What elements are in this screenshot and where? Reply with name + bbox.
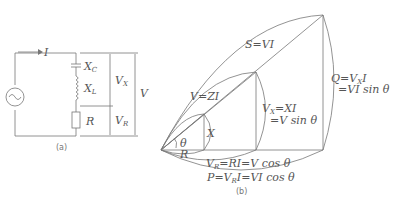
power-triangle-diagram: S=VI V=ZI VX=XI =V sin θ Q=VXI =VI sin θ… xyxy=(161,15,390,196)
vr-label: VR xyxy=(115,114,129,128)
circuit-diagram: I XC XL R VX VR V (a) xyxy=(6,46,149,152)
q-sin-label: =VI sin θ xyxy=(338,83,390,96)
x-label: X xyxy=(206,127,216,140)
xc-label: XC xyxy=(83,60,98,74)
vx-label: VX xyxy=(115,74,129,88)
v-zi-label: V=ZI xyxy=(190,90,220,103)
sine-wave-icon xyxy=(9,95,21,100)
current-label: I xyxy=(43,46,49,59)
wire-bottom xyxy=(15,110,76,136)
v-label: V xyxy=(140,87,149,100)
inductor-icon xyxy=(76,76,78,100)
caption-b: (b) xyxy=(236,187,247,196)
xl-label: XL xyxy=(83,82,97,96)
resistor-icon xyxy=(72,112,80,128)
p-label: P=VRI=VI cos θ xyxy=(206,171,295,185)
arrow-head-icon xyxy=(38,49,43,55)
s-label: S=VI xyxy=(245,38,275,51)
diagram-canvas: I XC XL R VX VR V (a) xyxy=(0,0,412,203)
vx-sin-label: =V sin θ xyxy=(270,114,317,127)
vr-label: VR=RI=V cos θ xyxy=(206,157,291,171)
r-label: R xyxy=(85,115,94,128)
caption-a: (a) xyxy=(56,143,67,152)
theta-label: θ xyxy=(180,137,187,150)
